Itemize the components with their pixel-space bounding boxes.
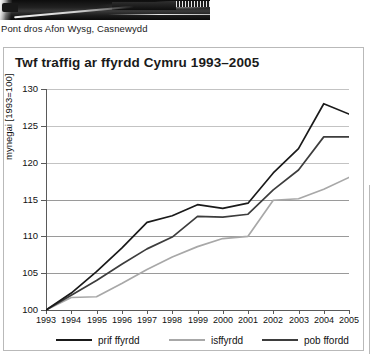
series-line-isffyrdd xyxy=(46,177,349,310)
y-tick-label-120: 120 xyxy=(8,158,38,168)
legend-swatch-isffyrdd xyxy=(169,339,205,341)
legend-item-prif-ffyrdd[interactable]: prif ffyrdd xyxy=(56,335,140,346)
photo-railing-shape xyxy=(176,1,210,7)
x-tick-mark-2005 xyxy=(349,310,350,314)
y-tick-label-105: 105 xyxy=(8,268,38,278)
chart-panel: Twf traffig ar ffyrdd Cymru 1993–2005 my… xyxy=(3,47,364,351)
y-tick-label-130: 130 xyxy=(8,84,38,94)
y-tick-label-110: 110 xyxy=(8,231,38,241)
y-tick-label-100: 100 xyxy=(8,305,38,315)
photo-lane-marking-secondary xyxy=(108,14,210,15)
photo-caption: Pont dros Afon Wysg, Casnewydd xyxy=(1,23,148,34)
photo-block xyxy=(0,0,210,20)
legend-label-prif-ffyrdd: prif ffyrdd xyxy=(98,335,140,346)
series-line-prif-ffyrdd xyxy=(46,104,349,310)
legend-swatch-prif-ffyrdd xyxy=(56,339,92,341)
legend-swatch-pob-ffordd xyxy=(262,339,298,341)
photo-lane-marking xyxy=(14,6,134,18)
series-line-pob-ffordd xyxy=(46,137,349,310)
legend-label-pob-ffordd: pob ffordd xyxy=(304,335,349,346)
x-tick-label-2005: 2005 xyxy=(334,316,364,325)
series-plot xyxy=(46,89,349,311)
y-tick-label-125: 125 xyxy=(8,121,38,131)
photo-vehicle-shape xyxy=(2,3,18,12)
legend-item-isffyrdd[interactable]: isffyrdd xyxy=(169,335,243,346)
legend-item-pob-ffordd[interactable]: pob ffordd xyxy=(262,335,349,346)
motorway-bridge-photo xyxy=(0,0,210,20)
chart-title: Twf traffig ar ffyrdd Cymru 1993–2005 xyxy=(15,55,259,70)
adjacent-panel-edge xyxy=(369,185,374,354)
legend-label-isffyrdd: isffyrdd xyxy=(211,335,243,346)
y-tick-label-115: 115 xyxy=(8,195,38,205)
chart-legend: prif ffyrddisffyrddpob ffordd xyxy=(4,330,365,350)
